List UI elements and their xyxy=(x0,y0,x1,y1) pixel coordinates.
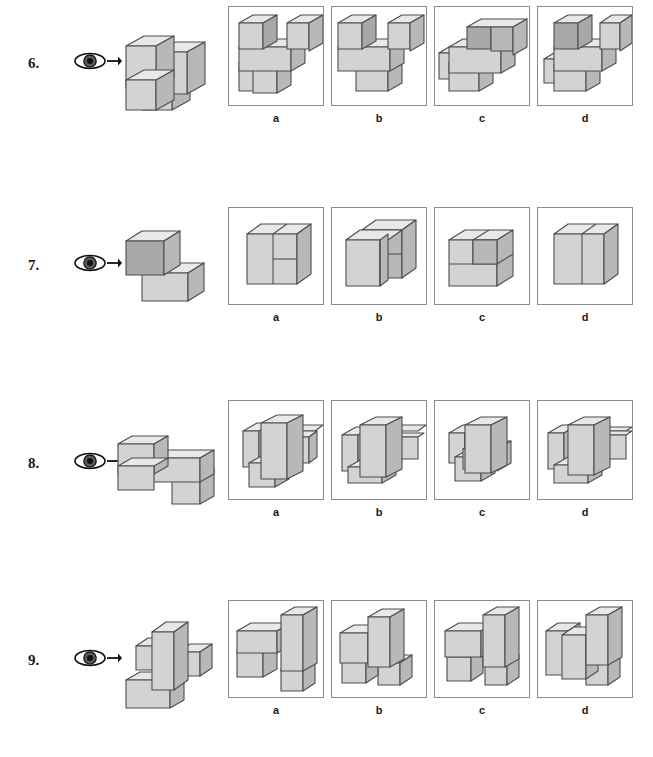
question-number: 7. xyxy=(28,257,39,274)
option-label-b: b xyxy=(331,704,427,716)
question-row-8: 8. xyxy=(0,390,653,575)
eye-icon xyxy=(75,454,105,469)
option-panel-b[interactable] xyxy=(331,400,427,500)
eye-icon xyxy=(75,54,105,69)
question-number: 9. xyxy=(28,652,39,669)
option-panel-a[interactable] xyxy=(228,6,324,106)
eye-icon xyxy=(75,256,105,271)
eye-arrow-group xyxy=(74,647,122,669)
option-label-b: b xyxy=(331,112,427,124)
option-label-c: c xyxy=(434,112,530,124)
option-panel-a[interactable] xyxy=(228,400,324,500)
option-label-d: d xyxy=(537,112,633,124)
question-number: 6. xyxy=(28,55,39,72)
option-label-a: a xyxy=(228,311,324,323)
option-panel-d[interactable] xyxy=(537,207,633,305)
stimulus-figure-9 xyxy=(118,608,233,717)
option-panel-a[interactable] xyxy=(228,207,324,305)
option-label-a: a xyxy=(228,506,324,518)
option-panel-a[interactable] xyxy=(228,600,324,698)
option-label-a: a xyxy=(228,112,324,124)
option-label-c: c xyxy=(434,704,530,716)
option-panel-d[interactable] xyxy=(537,400,633,500)
option-label-c: c xyxy=(434,311,530,323)
stimulus-figure-7 xyxy=(118,223,228,317)
option-panel-b[interactable] xyxy=(331,207,427,305)
option-label-a: a xyxy=(228,704,324,716)
question-number: 8. xyxy=(28,455,39,472)
option-label-d: d xyxy=(537,311,633,323)
question-row-6: 6. xyxy=(0,0,653,180)
option-label-b: b xyxy=(331,506,427,518)
option-label-d: d xyxy=(537,506,633,518)
eye-icon xyxy=(75,651,105,666)
option-panel-c[interactable] xyxy=(434,207,530,305)
option-panel-c[interactable] xyxy=(434,400,530,500)
question-row-7: 7. xyxy=(0,195,653,375)
option-panel-d[interactable] xyxy=(537,6,633,106)
option-panel-c[interactable] xyxy=(434,600,530,698)
option-panel-b[interactable] xyxy=(331,600,427,698)
option-label-c: c xyxy=(434,506,530,518)
option-label-d: d xyxy=(537,704,633,716)
question-row-9: 9. xyxy=(0,590,653,757)
option-panel-b[interactable] xyxy=(331,6,427,106)
option-panel-d[interactable] xyxy=(537,600,633,698)
worksheet-page: 6. xyxy=(0,0,653,757)
stimulus-figure-8 xyxy=(110,418,230,517)
stimulus-figure-6 xyxy=(112,18,222,122)
eye-arrow-group xyxy=(74,252,122,274)
option-panel-c[interactable] xyxy=(434,6,530,106)
option-label-b: b xyxy=(331,311,427,323)
